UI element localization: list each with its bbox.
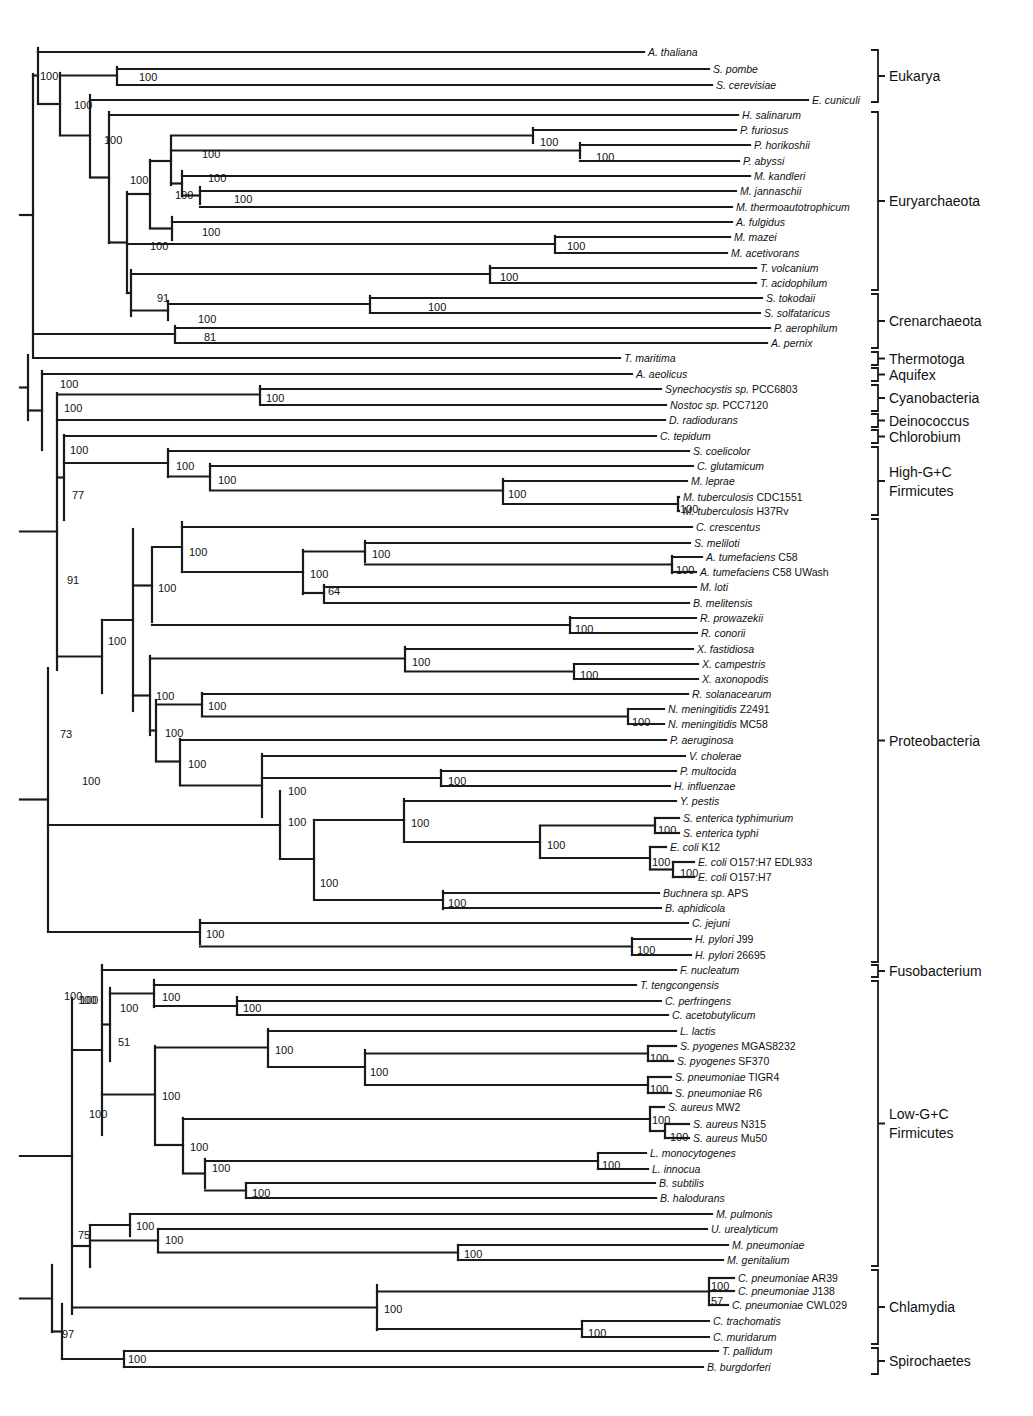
taxon-label: H. pylori J99 (695, 933, 754, 945)
bootstrap-value: 100 (120, 1002, 138, 1014)
taxon-label: C. acetobutylicum (672, 1009, 756, 1021)
taxon-label: P. aeruginosa (670, 734, 734, 746)
group-label: Chlamydia (889, 1299, 955, 1315)
taxon-label: M. thermoautotrophicum (736, 201, 850, 213)
group-bracket (871, 430, 885, 443)
taxon-label: E. coli O157:H7 EDL933 (698, 856, 813, 868)
taxon-label: S. enterica typhimurium (683, 812, 794, 824)
taxon-label: R. conorii (701, 627, 746, 639)
group-label: Deinococcus (889, 413, 969, 429)
group-bracket (871, 447, 885, 515)
bootstrap-value: 100 (218, 474, 236, 486)
bootstrap-value: 81 (204, 331, 216, 343)
taxon-label: M. loti (700, 581, 729, 593)
bootstrap-value: 100 (156, 690, 174, 702)
taxon-label: C. pneumoniae CWL029 (732, 1299, 847, 1311)
bootstrap-value: 97 (62, 1328, 74, 1340)
group-bracket (871, 385, 885, 411)
group-bracket (871, 112, 885, 290)
group-label: Low-G+C (889, 1106, 949, 1122)
group-label: Cyanobacteria (889, 390, 979, 406)
taxon-label: C. pneumoniae J138 (738, 1285, 835, 1297)
group-bracket (871, 368, 885, 381)
bootstrap-value: 100 (680, 503, 698, 515)
bootstrap-value: 100 (288, 816, 306, 828)
bootstrap-value: 100 (162, 991, 180, 1003)
taxon-label: H. influenzae (674, 780, 735, 792)
bootstrap-value: 100 (130, 174, 148, 186)
bootstrap-value: 100 (658, 824, 676, 836)
bootstrap-value: 100 (74, 99, 92, 111)
taxon-label: A. thaliana (647, 46, 698, 58)
bootstrap-value: 100 (70, 444, 88, 456)
taxon-label: Y. pestis (680, 795, 720, 807)
bootstrap-value: 100 (448, 897, 466, 909)
group-bracket (871, 50, 885, 102)
taxon-label: A. tumefaciens C58 (705, 551, 798, 563)
taxon-label: T. volcanium (760, 262, 819, 274)
phylogenetic-tree: A. thalianaS. pombeS. cerevisiaeE. cunic… (0, 0, 1033, 1416)
taxon-label: L. lactis (680, 1025, 716, 1037)
taxon-label: M. pulmonis (716, 1208, 773, 1220)
taxon-label: C. muridarum (713, 1331, 777, 1343)
group-bracket (871, 294, 885, 348)
group-label: Proteobacteria (889, 733, 980, 749)
taxon-label: D. radiodurans (669, 414, 739, 426)
taxon-label: S. cerevisiae (716, 79, 776, 91)
bootstrap-value: 100 (448, 775, 466, 787)
group-bracket (871, 414, 885, 427)
bootstrap-value: 100 (567, 240, 585, 252)
taxon-label: A. tumefaciens C58 UWash (699, 566, 829, 578)
bootstrap-value: 100 (64, 402, 82, 414)
taxon-label: S. pneumoniae R6 (675, 1087, 762, 1099)
bootstrap-value: 100 (266, 392, 284, 404)
bootstrap-value: 100 (637, 944, 655, 956)
taxon-label: N. meningitidis MC58 (668, 718, 768, 730)
bootstrap-value: 100 (208, 700, 226, 712)
taxon-label: S. enterica typhi (683, 827, 759, 839)
taxon-label: M. tuberculosis CDC1551 (683, 491, 803, 503)
taxon-label: T. acidophilum (760, 277, 828, 289)
taxon-label: P. furiosus (740, 124, 789, 136)
group-label: Thermotoga (889, 351, 965, 367)
taxon-label: C. jejuni (692, 917, 731, 929)
bootstrap-value: 100 (711, 1280, 729, 1292)
bootstrap-value: 100 (108, 635, 126, 647)
bootstrap-value: 100 (202, 148, 220, 160)
taxon-label: U. urealyticum (711, 1223, 778, 1235)
group-label: Crenarchaeota (889, 313, 982, 329)
taxon-label: C. perfringens (665, 995, 732, 1007)
bootstrap-value: 100 (198, 313, 216, 325)
bootstrap-value: 100 (508, 488, 526, 500)
bootstrap-value: 100 (602, 1159, 620, 1171)
taxon-label: X. fastidiosa (696, 643, 754, 655)
taxon-label: S. pyogenes MGAS8232 (680, 1040, 796, 1052)
taxon-label: M. kandleri (754, 170, 806, 182)
taxon-label: Buchnera sp. APS (663, 887, 748, 899)
bootstrap-value: 100 (150, 240, 168, 252)
bootstrap-value: 100 (680, 867, 698, 879)
taxon-label: B. melitensis (693, 597, 753, 609)
taxon-label: S. pyogenes SF370 (677, 1055, 769, 1067)
bootstrap-value: 100 (139, 71, 157, 83)
bootstrap-value: 100 (128, 1353, 146, 1365)
taxon-label: M. tuberculosis H37Rv (683, 505, 789, 517)
taxon-label: S. solfataricus (764, 307, 831, 319)
bootstrap-value: 64 (328, 585, 340, 597)
taxon-label: C. glutamicum (697, 460, 764, 472)
taxon-label: F. nucleatum (680, 964, 740, 976)
bootstrap-value: 100 (189, 546, 207, 558)
bootstrap-value: 100 (575, 623, 593, 635)
taxon-label: E. cuniculi (812, 94, 861, 106)
group-label: Aquifex (889, 367, 936, 383)
taxonomic-group-brackets: EukaryaEuryarchaeotaCrenarchaeotaThermot… (871, 50, 982, 1374)
bootstrap-value: 100 (288, 785, 306, 797)
taxon-label: E. coli K12 (670, 841, 720, 853)
taxon-label: L. monocytogenes (650, 1147, 737, 1159)
taxon-label: C. trachomatis (713, 1315, 781, 1327)
bootstrap-value: 100 (202, 226, 220, 238)
taxon-label: H. salinarum (742, 109, 801, 121)
taxon-label: M. jannaschii (740, 185, 802, 197)
taxon-label: C. pneumoniae AR39 (738, 1272, 838, 1284)
bootstrap-value: 100 (372, 548, 390, 560)
